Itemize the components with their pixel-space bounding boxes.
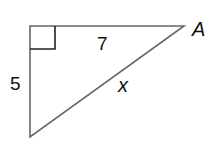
right-angle-marker	[30, 26, 55, 49]
vertex-label-a: A	[191, 18, 205, 40]
triangle-diagram: 7 5 x A	[0, 0, 215, 148]
side-label-left: 5	[10, 73, 21, 94]
side-label-top: 7	[97, 33, 108, 54]
hypotenuse-label: x	[117, 74, 129, 96]
